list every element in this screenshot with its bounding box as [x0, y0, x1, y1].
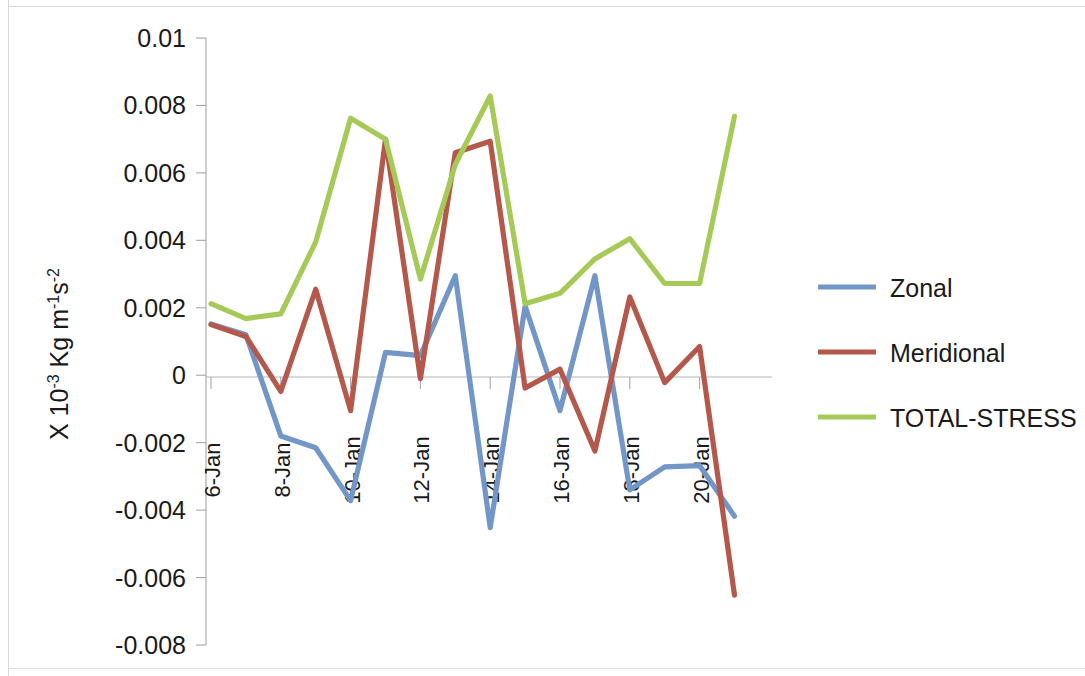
x-tick-labels: 6-Jan8-Jan10-Jan12-Jan14-Jan16-Jan18-Jan… [200, 436, 714, 503]
series-lines [211, 96, 735, 595]
legend-label-meridional: Meridional [890, 339, 1005, 367]
y-axis-title: X 10-3 Kg m-1s-2 [45, 268, 73, 440]
y-tick-label: 0.006 [123, 159, 186, 187]
legend-label-total-stress: TOTAL-STRESS [890, 404, 1077, 432]
y-axis-title-text: X 10-3 Kg m-1s-2 [45, 268, 73, 440]
series-line-meridional [211, 139, 735, 595]
y-tick-label: 0.002 [123, 294, 186, 322]
y-tick-label: -0.004 [115, 496, 186, 524]
y-axis: 0.010.0080.0060.0040.0020-0.002-0.004-0.… [115, 24, 206, 659]
y-tick-label: -0.008 [115, 631, 186, 659]
x-tick-label: 8-Jan [270, 442, 295, 497]
y-tick-label: 0.008 [123, 91, 186, 119]
y-tick-label: -0.006 [115, 564, 186, 592]
legend-label-zonal: Zonal [890, 274, 953, 302]
y-tick-labels: 0.010.0080.0060.0040.0020-0.002-0.004-0.… [115, 24, 186, 659]
x-tick-label: 6-Jan [200, 442, 225, 497]
y-tick-label: -0.002 [115, 429, 186, 457]
y-tick-label: 0.01 [137, 24, 186, 52]
x-tick-label: 12-Jan [409, 436, 434, 503]
y-tick-label: 0 [172, 361, 186, 389]
chart-figure: 0.010.0080.0060.0040.0020-0.002-0.004-0.… [0, 0, 1085, 676]
chart-legend: ZonalMeridionalTOTAL-STRESS [818, 274, 1077, 432]
x-tick-label: 16-Jan [549, 436, 574, 503]
y-tick-marks [196, 38, 206, 645]
series-line-total-stress [211, 96, 735, 319]
line-chart: 0.010.0080.0060.0040.0020-0.002-0.004-0.… [0, 0, 1085, 676]
y-tick-label: 0.004 [123, 226, 186, 254]
